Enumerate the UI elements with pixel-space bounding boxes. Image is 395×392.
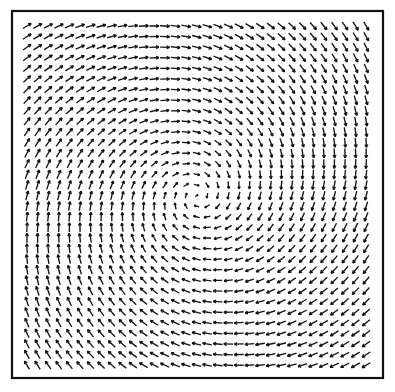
field-arrow-head — [333, 197, 334, 200]
field-arrow-head — [311, 197, 312, 200]
field-arrow-head — [240, 102, 243, 103]
field-arrow-head — [198, 101, 201, 102]
field-arrow-head — [112, 202, 113, 205]
field-arrow-head — [282, 39, 285, 40]
field-arrow-head — [119, 330, 122, 331]
field-arrow-head — [98, 362, 101, 363]
field-arrow-head — [188, 59, 191, 60]
field-arrow-head — [151, 288, 154, 289]
field-arrow-head — [218, 155, 221, 156]
field-arrow-head — [192, 310, 195, 311]
field-arrow-head — [257, 238, 258, 241]
field-arrow-head — [269, 197, 270, 200]
field-arrow-head — [333, 187, 334, 190]
field-arrow-head — [151, 267, 154, 268]
field-arrow-head — [271, 28, 274, 29]
field-arrow-head — [203, 321, 206, 322]
field-arrow-head — [124, 160, 125, 163]
field-arrow-head — [114, 140, 115, 143]
field-arrow-head — [239, 113, 242, 114]
field-arrow-head — [352, 291, 353, 294]
field-arrow-head — [119, 341, 122, 342]
field-arrow-head — [193, 258, 196, 259]
field-arrow-head — [123, 191, 124, 194]
field-arrow-head — [135, 161, 136, 164]
field-arrow-head — [239, 124, 242, 125]
field-arrow-head — [129, 330, 132, 331]
field-arrow-head — [28, 181, 29, 184]
field-arrow-head — [184, 215, 186, 216]
field-arrow-head — [61, 118, 62, 121]
field-arrow-head — [146, 161, 147, 164]
field-arrow-head — [29, 107, 30, 110]
field-arrow-head — [28, 191, 29, 194]
field-arrow-head — [229, 123, 232, 124]
field-arrow-head — [278, 249, 279, 252]
field-arrow-head — [134, 192, 135, 195]
field-arrow-head — [51, 118, 52, 121]
field-arrow-head — [209, 38, 212, 39]
field-arrow-head — [203, 300, 206, 301]
field-arrow-head — [123, 202, 124, 205]
field-arrow-head — [342, 270, 343, 273]
field-arrow-head — [290, 187, 291, 190]
field-arrow-head — [289, 249, 290, 252]
field-arrow-head — [207, 186, 209, 187]
field-arrow-head — [82, 129, 83, 132]
field-arrow-head — [292, 28, 295, 29]
field-arrow-head — [261, 60, 264, 61]
field-arrow-head — [218, 166, 220, 167]
field-arrow-head — [312, 187, 313, 190]
field-arrow-head — [192, 342, 195, 343]
field-arrow-head — [162, 256, 165, 257]
field-arrow-head — [198, 38, 201, 39]
field-arrow-head — [60, 191, 61, 194]
field-arrow-head — [292, 39, 295, 40]
field-arrow-head — [29, 118, 30, 121]
field-arrow-head — [268, 228, 269, 231]
field-arrow-head — [49, 202, 50, 205]
field-arrow-head — [40, 118, 41, 121]
field-arrow-head — [145, 192, 146, 195]
field-arrow-head — [141, 277, 144, 278]
field-arrow-head — [29, 97, 30, 100]
field-arrow-head — [92, 191, 93, 194]
field-arrow-head — [331, 281, 332, 284]
field-arrow-head — [102, 202, 103, 205]
field-arrow-head — [271, 50, 274, 51]
field-arrow-head — [331, 270, 332, 273]
field-arrow-head — [198, 91, 201, 92]
field-arrow-head — [93, 139, 94, 142]
field-arrow-head — [364, 187, 365, 190]
field-arrow-head — [198, 48, 201, 49]
field-arrow-head — [322, 197, 323, 200]
field-arrow-head — [290, 197, 291, 200]
field-arrow-head — [322, 187, 323, 190]
field-arrow-head — [140, 288, 143, 289]
field-arrow-head — [198, 80, 201, 81]
field-arrow-head — [192, 332, 195, 333]
field-arrow-head — [188, 101, 191, 102]
field-arrow-head — [151, 278, 154, 279]
field-arrow-head — [119, 362, 122, 363]
field-arrow-head — [129, 352, 132, 353]
field-arrow-head — [193, 226, 195, 227]
field-arrow-head — [289, 239, 290, 242]
field-arrow-head — [129, 341, 132, 342]
field-arrow-head — [130, 298, 133, 299]
field-arrow-head — [188, 90, 191, 91]
field-arrow-head — [310, 260, 311, 263]
field-arrow-head — [198, 122, 201, 123]
field-arrow-head — [363, 291, 364, 294]
field-arrow-head — [108, 362, 111, 363]
field-arrow-head — [51, 107, 52, 110]
field-arrow-head — [188, 80, 191, 81]
field-arrow-head — [343, 197, 344, 200]
field-arrow-head — [239, 134, 242, 135]
field-arrow-head — [198, 165, 200, 166]
field-arrow-head — [207, 176, 209, 177]
field-arrow-head — [98, 351, 101, 352]
field-arrow-head — [161, 267, 164, 268]
field-arrow-head — [282, 60, 285, 61]
field-arrow-head — [103, 150, 104, 153]
